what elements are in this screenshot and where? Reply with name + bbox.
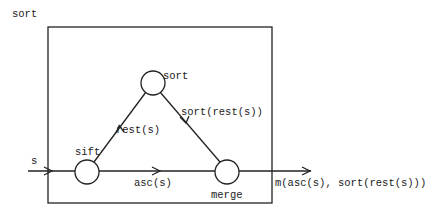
box-title: sort [12,8,37,20]
node-merge-label: merge [211,189,243,201]
edge-input: s [28,155,75,175]
node-sift-label: sift [75,146,100,158]
edge-output-label: m(asc(s), sort(rest(s))) [275,177,426,189]
node-sort: sort [141,70,188,95]
node-merge: merge [211,160,243,201]
edge-asc: asc(s) [99,167,215,189]
edge-sorted-rest-label: sort(rest(s)) [181,106,263,118]
sort-network-diagram: sort s rest(s) sort(rest(s)) asc(s) m(as… [0,0,438,214]
node-sort-label: sort [163,70,188,82]
edge-asc-label: asc(s) [134,177,172,189]
edge-input-label: s [31,155,37,167]
edge-rest: rest(s) [94,92,160,162]
process-circle-icon [75,160,99,184]
edge-output: m(asc(s), sort(rest(s))) [239,167,426,189]
node-sift: sift [75,146,100,184]
edge-sorted-rest: sort(rest(s)) [160,92,263,162]
process-circle-icon [215,160,239,184]
process-circle-icon [141,71,165,95]
edge-rest-label: rest(s) [116,124,160,136]
